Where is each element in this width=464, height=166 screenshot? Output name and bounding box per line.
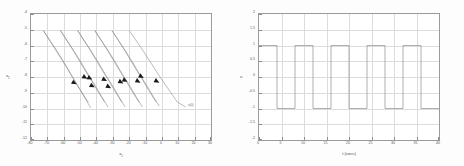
x-tick-label: 30 <box>391 142 395 146</box>
direction-arrow <box>101 76 107 81</box>
y-tick-label: 1.5 <box>244 27 255 31</box>
plot-lines <box>31 14 211 140</box>
y-tick-label: 2 <box>244 11 255 15</box>
plot-lines <box>259 14 439 140</box>
square-wave-ylabel: u <box>240 75 242 79</box>
phase-plane-axes: x(0) <box>30 13 212 141</box>
direction-arrow <box>105 84 111 89</box>
direction-arrow <box>87 75 93 80</box>
trajectory-line <box>129 31 185 107</box>
x-tick-label: -60 <box>60 142 65 146</box>
x-tick-label: 0 <box>160 142 162 146</box>
x-tick-label: 10 <box>301 142 305 146</box>
y-tick-label: 1 <box>244 43 255 47</box>
x-tick-label: 0 <box>257 142 259 146</box>
square-wave-xlabel: t (secs) <box>342 152 356 156</box>
square-wave-signal <box>259 14 439 140</box>
square-wave-axes <box>258 13 440 141</box>
phase-plane-ylabel: x2 <box>6 74 10 81</box>
x-tick-label: -10 <box>142 142 147 146</box>
y-tick-label: 0.5 <box>244 58 255 62</box>
x-tick-label: 30 <box>208 142 212 146</box>
y-tick-label: -1.5 <box>244 121 255 125</box>
direction-arrow <box>135 78 141 83</box>
direction-arrow <box>154 78 160 83</box>
x-tick-label: -80 <box>27 142 32 146</box>
y-tick-label: -4 <box>16 11 27 15</box>
y-tick-label: -7 <box>16 58 27 62</box>
x-tick-label: 5 <box>280 142 282 146</box>
y-tick-label: -8 <box>16 74 27 78</box>
phase-plane-panel: x(0) -80-70-60-50-40-30-20-100102030-4-5… <box>0 0 232 166</box>
x-tick-label: -50 <box>76 142 81 146</box>
y-tick-label: -2 <box>244 137 255 141</box>
x-tick-label: -70 <box>44 142 49 146</box>
square-wave-panel: 0510152025303540-2-1.5-1-0.500.511.52 t … <box>232 0 464 166</box>
x-tick-label: 10 <box>175 142 179 146</box>
phase-plane-trajectories: x(0) <box>31 14 211 140</box>
y-tick-label: -6 <box>16 43 27 47</box>
x-tick-label: -20 <box>126 142 131 146</box>
x-tick-label: 35 <box>414 142 418 146</box>
x-tick-label: 20 <box>192 142 196 146</box>
y-tick-label: -11 <box>16 121 27 125</box>
x-tick-label: -30 <box>109 142 114 146</box>
trajectory-line <box>43 31 88 103</box>
x-tick-label: 20 <box>346 142 350 146</box>
y-tick-label: -5 <box>16 27 27 31</box>
trajectory-line <box>95 31 139 103</box>
y-tick-label: -9 <box>16 90 27 94</box>
x-tick-label: 40 <box>436 142 440 146</box>
trajectory-line <box>112 31 156 103</box>
y-tick-label: -1 <box>244 106 255 110</box>
y-tick-label: 0 <box>244 74 255 78</box>
initial-condition-annotation: x(0) <box>188 104 194 107</box>
x-tick-label: 25 <box>369 142 373 146</box>
direction-arrow <box>82 74 88 79</box>
figure-canvas: x(0) -80-70-60-50-40-30-20-100102030-4-5… <box>0 0 464 166</box>
square-wave-line <box>259 46 439 109</box>
phase-plane-xlabel: x1 <box>119 152 123 159</box>
y-tick-label: -12 <box>16 137 27 141</box>
trajectory-line <box>78 31 122 103</box>
x-tick-label: 15 <box>324 142 328 146</box>
y-tick-label: -10 <box>16 106 27 110</box>
x-tick-label: -40 <box>93 142 98 146</box>
y-tick-label: -0.5 <box>244 90 255 94</box>
trajectory-line <box>60 31 104 103</box>
